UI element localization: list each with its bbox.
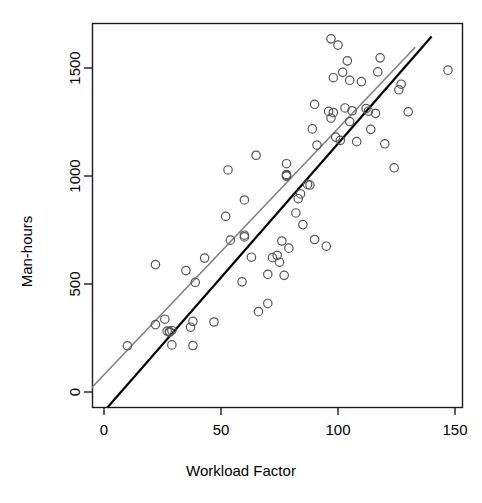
plot-frame xyxy=(93,24,463,408)
data-point xyxy=(322,242,330,250)
y-axis-title: Man-hours xyxy=(18,0,36,503)
data-point xyxy=(395,86,403,94)
plot-border xyxy=(93,24,463,408)
x-tick-label-100: 100 xyxy=(325,421,350,438)
data-point xyxy=(308,125,316,133)
fitted-line-black xyxy=(88,36,432,430)
regression-lines xyxy=(85,36,431,430)
data-point xyxy=(210,318,218,326)
data-point xyxy=(329,108,337,116)
data-point xyxy=(282,159,290,167)
data-point xyxy=(200,254,208,262)
data-point xyxy=(226,236,234,244)
data-point xyxy=(404,108,412,116)
data-point xyxy=(329,74,337,82)
data-point xyxy=(264,270,272,278)
data-point xyxy=(224,166,232,174)
fitted-line-gray xyxy=(85,47,415,394)
data-point xyxy=(381,140,389,148)
data-point xyxy=(221,212,229,220)
data-point xyxy=(343,57,351,65)
data-point xyxy=(327,35,335,43)
data-point xyxy=(310,235,318,243)
data-point xyxy=(123,342,131,350)
data-point xyxy=(264,299,272,307)
axis-tick-labels: 050100150050010001500 xyxy=(66,51,468,438)
y-tick-label-500: 500 xyxy=(66,271,83,296)
data-point xyxy=(444,66,452,74)
data-point xyxy=(161,315,169,323)
data-point xyxy=(247,253,255,261)
data-point xyxy=(280,271,288,279)
data-point xyxy=(240,196,248,204)
data-point xyxy=(168,341,176,349)
y-tick-label-0: 0 xyxy=(66,388,83,396)
data-point xyxy=(182,266,190,274)
data-point xyxy=(367,125,375,133)
data-point xyxy=(310,100,318,108)
data-point xyxy=(390,164,398,172)
data-point xyxy=(334,41,342,49)
data-point xyxy=(254,307,262,315)
x-tick-label-50: 50 xyxy=(213,421,230,438)
chart-canvas: 050100150050010001500 xyxy=(0,0,482,503)
data-point xyxy=(189,341,197,349)
data-point xyxy=(252,151,260,159)
data-point xyxy=(292,209,300,217)
x-axis-title: Workload Factor xyxy=(0,462,482,479)
data-point xyxy=(353,137,361,145)
x-tick-label-0: 0 xyxy=(100,421,108,438)
x-tick-label-150: 150 xyxy=(442,421,467,438)
data-point xyxy=(285,244,293,252)
data-point xyxy=(338,68,346,76)
data-point xyxy=(346,117,354,125)
data-point xyxy=(374,68,382,76)
axis-ticks xyxy=(84,68,455,415)
data-point xyxy=(313,141,321,149)
data-point xyxy=(299,220,307,228)
data-point xyxy=(278,237,286,245)
data-point xyxy=(357,77,365,85)
data-point xyxy=(397,80,405,88)
data-point xyxy=(346,76,354,84)
y-tick-label-1500: 1500 xyxy=(66,51,83,84)
data-point xyxy=(151,260,159,268)
data-point xyxy=(238,278,246,286)
data-point xyxy=(376,54,384,62)
scatter-plot-figure: 050100150050010001500 Workload Factor Ma… xyxy=(0,0,482,503)
y-tick-label-1000: 1000 xyxy=(66,159,83,192)
